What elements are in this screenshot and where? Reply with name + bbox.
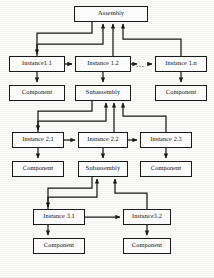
- node-instance-3-2[interactable]: Instance3.2: [123, 209, 171, 225]
- node-label: Component: [132, 243, 162, 249]
- node-label: Instance 3.1: [43, 214, 75, 220]
- node-component-1-n[interactable]: Component: [155, 85, 207, 101]
- node-component-3-1[interactable]: Component: [33, 238, 85, 254]
- node-instance-2-1[interactable]: Instance 2.1: [12, 132, 64, 148]
- node-label: Instance 2.3: [150, 137, 182, 143]
- node-layer: Assembly Instance1.1 Instance 1.2 Instan…: [0, 0, 214, 278]
- node-label: Subassembly: [86, 90, 120, 96]
- node-subassembly-1[interactable]: Subassembly: [75, 85, 131, 101]
- node-assembly[interactable]: Assembly: [74, 6, 148, 22]
- node-label: Subassembly: [86, 166, 120, 172]
- hierarchy-diagram: Assembly Instance1.1 Instance 1.2 Instan…: [0, 0, 214, 278]
- node-label: Component: [22, 90, 52, 96]
- node-label: Component: [23, 166, 53, 172]
- node-label: Component: [166, 90, 196, 96]
- node-instance-1-n[interactable]: Instance 1.n: [155, 56, 207, 72]
- node-label: Instance 1.2: [87, 61, 119, 67]
- node-label: Assembly: [98, 11, 124, 17]
- node-instance-3-1[interactable]: Instance 3.1: [33, 209, 85, 225]
- node-label: Instance3.2: [132, 214, 162, 220]
- node-instance-1-2[interactable]: Instance 1.2: [75, 56, 131, 72]
- node-label: Instance 2.1: [22, 137, 54, 143]
- node-instance-1-1[interactable]: Instance1.1: [9, 56, 65, 72]
- node-label: Component: [44, 243, 74, 249]
- ellipsis-label: ...: [136, 60, 145, 69]
- node-label: Instance 1.n: [165, 61, 197, 67]
- node-component-2-3[interactable]: Component: [140, 161, 192, 177]
- node-component-3-2[interactable]: Component: [123, 238, 171, 254]
- node-label: Instance 2.2: [87, 137, 119, 143]
- node-component-2-1[interactable]: Component: [12, 161, 64, 177]
- node-instance-2-3[interactable]: Instance 2.3: [140, 132, 192, 148]
- node-instance-2-2[interactable]: Instance 2.2: [78, 132, 128, 148]
- node-component-1-1[interactable]: Component: [9, 85, 65, 101]
- node-label: Component: [151, 166, 181, 172]
- node-label: Instance1.1: [22, 61, 52, 67]
- node-subassembly-2[interactable]: Subassembly: [78, 161, 128, 177]
